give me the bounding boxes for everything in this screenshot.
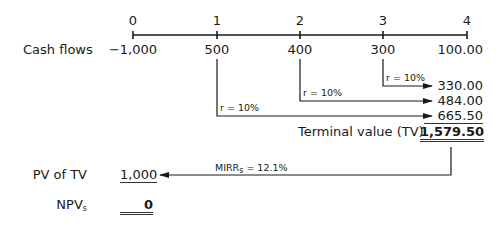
cash-flows-label: Cash flows <box>23 42 93 57</box>
terminal-value-amount: 1,579.50 <box>420 124 484 142</box>
fv-period1: 665.50 <box>420 108 483 125</box>
npv-subscript: s <box>83 204 87 213</box>
terminal-value-label: Terminal value (TV) <box>298 124 424 139</box>
fv-period1-value: 665.50 <box>424 108 484 124</box>
rate-label-period2: r = 10% <box>303 87 342 98</box>
npv-text: NPV <box>56 197 82 212</box>
mirr-label: MIRRs = 12.1% <box>215 162 288 175</box>
cash-flow-3: 300 <box>358 42 408 57</box>
discount-arrow <box>160 147 451 175</box>
mirr-value: = 12.1% <box>243 162 287 173</box>
rate-label-period1: r = 10% <box>220 102 259 113</box>
period-0: 0 <box>123 13 143 28</box>
pv-of-tv: 1,000 <box>120 167 157 183</box>
fv-period2: 484.00 <box>420 93 483 108</box>
pv-of-tv-value: 1,000 <box>120 167 157 183</box>
npv-value: 0 <box>120 197 153 215</box>
period-4: 4 <box>457 13 477 28</box>
period-1: 1 <box>207 13 227 28</box>
timeline-axis <box>133 31 467 39</box>
cash-flow-4: 100.00 <box>420 42 483 57</box>
terminal-value: 1,579.50 <box>420 124 483 142</box>
mirr-text: MIRR <box>215 162 239 173</box>
period-3: 3 <box>373 13 393 28</box>
fv-period3: 330.00 <box>420 78 483 93</box>
npv: 0 <box>120 197 153 215</box>
cash-flow-1: 500 <box>192 42 242 57</box>
period-2: 2 <box>290 13 310 28</box>
cash-flow-0: −1,000 <box>103 42 163 57</box>
cash-flow-2: 400 <box>275 42 325 57</box>
pv-of-tv-label: PV of TV <box>20 167 87 182</box>
npv-label: NPVs <box>20 197 87 213</box>
